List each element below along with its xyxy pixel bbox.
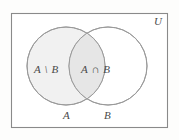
universal-set-label: U [154,16,162,27]
set-label-b: B [104,110,111,121]
set-label-a: A [63,110,70,121]
region-label-a-intersect-b: A ∩ B [81,64,111,75]
region-label-a-minus-b: A \ B [34,64,59,75]
venn-diagram-figure: U A \ B A ∩ B A B [0,0,179,140]
